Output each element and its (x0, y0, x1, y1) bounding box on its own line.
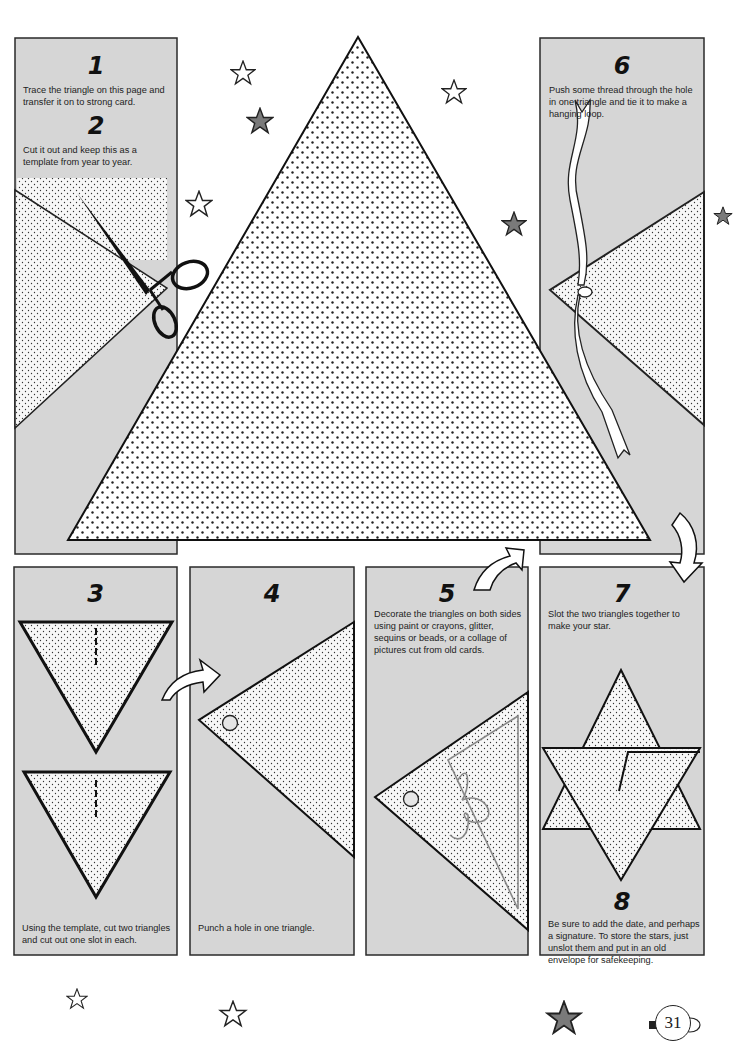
outline-star-icon (67, 989, 87, 1008)
step-text: Push some thread through the hole in one… (549, 84, 699, 120)
step-number: 3 (14, 580, 177, 608)
outline-star-icon (220, 1001, 246, 1025)
step-number: 1 (15, 52, 177, 80)
filled-star-icon (247, 108, 273, 133)
step-number: 7 (540, 580, 704, 608)
outline-star-icon (231, 61, 255, 84)
step-text: Trace the triangle on this page and tran… (23, 84, 173, 108)
filled-star-icon (714, 207, 732, 225)
step-number: 2 (15, 112, 177, 140)
filled-star-icon (548, 1002, 581, 1034)
page-number: 31 (655, 1005, 691, 1041)
step-text: Using the template, cut two triangles an… (22, 922, 172, 946)
step-text: Slot the two triangles together to make … (548, 608, 698, 632)
outline-star-icon (186, 191, 212, 216)
step-text: Punch a hole in one triangle. (198, 922, 348, 934)
step-text: Decorate the triangles on both sides usi… (374, 608, 524, 656)
step-text: Be sure to add the date, and perhaps a s… (548, 918, 700, 966)
outline-star-icon (442, 80, 466, 103)
filled-star-icon (502, 212, 526, 235)
step-number: 6 (540, 52, 704, 80)
step-number: 4 (190, 580, 354, 608)
step-text: Cut it out and keep this as a template f… (23, 144, 173, 168)
step-number: 8 (540, 888, 704, 916)
step-number: 5 (366, 580, 528, 608)
